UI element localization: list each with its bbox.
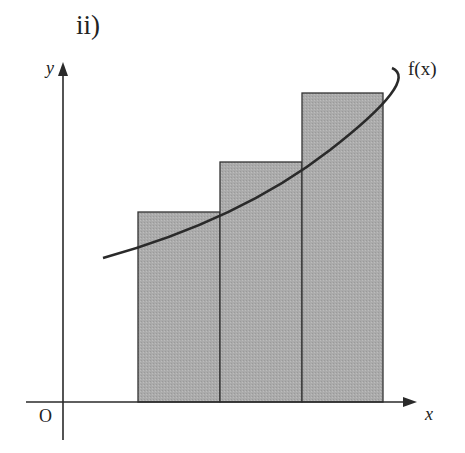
curve-label: f(x) bbox=[408, 58, 436, 80]
rectangle-1 bbox=[138, 212, 220, 402]
origin-label: O bbox=[39, 406, 52, 427]
rectangle-2 bbox=[220, 162, 302, 402]
x-axis-arrow-icon bbox=[403, 397, 417, 407]
diagram-canvas bbox=[0, 0, 465, 453]
y-axis-label: y bbox=[46, 58, 54, 79]
figure-title: ii) bbox=[76, 10, 100, 41]
y-axis-arrow-icon bbox=[58, 62, 68, 76]
x-axis-label: x bbox=[425, 404, 433, 425]
